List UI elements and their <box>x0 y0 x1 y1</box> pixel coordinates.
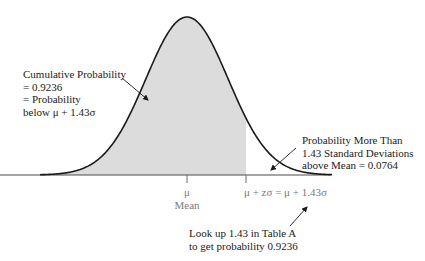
right-annotation-line: above Mean = 0.0764 <box>302 159 414 172</box>
cutoff-label: μ + zσ = μ + 1.43σ <box>244 186 327 199</box>
right-annotation: Probability More Than 1.43 Standard Devi… <box>302 134 414 172</box>
left-annotation-line: below μ + 1.43σ <box>23 106 126 119</box>
right-annotation-line: Probability More Than <box>302 134 414 147</box>
left-annotation-line: = 0.9236 <box>23 81 126 94</box>
mean-word: Mean <box>172 199 202 212</box>
bottom-annotation: Look up 1.43 in Table A to get probabili… <box>189 227 298 252</box>
diagram-canvas <box>0 0 425 261</box>
left-annotation-line: Cumulative Probability <box>23 68 126 81</box>
normal-distribution-diagram: Cumulative Probability = 0.9236 = Probab… <box>0 0 425 261</box>
left-annotation-line: = Probability <box>23 93 126 106</box>
left-annotation: Cumulative Probability = 0.9236 = Probab… <box>23 68 126 118</box>
bottom-annotation-line: to get probability 0.9236 <box>189 240 298 253</box>
bottom-annotation-line: Look up 1.43 in Table A <box>189 227 298 240</box>
mean-label: μ Mean <box>172 186 202 211</box>
right-annotation-line: 1.43 Standard Deviations <box>302 147 414 160</box>
bottom-annotation-arrow <box>290 207 307 226</box>
mean-symbol: μ <box>172 186 202 199</box>
